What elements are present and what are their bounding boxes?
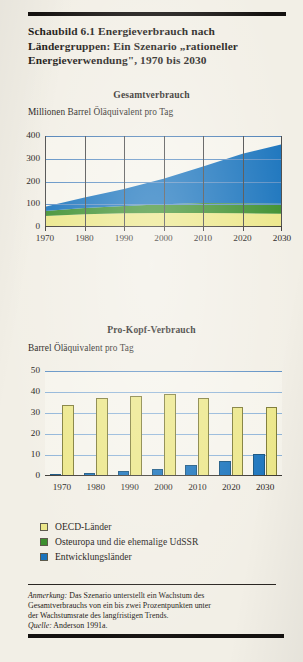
legend-swatch-oecd <box>40 523 48 531</box>
chart-1-tickmark-1980 <box>85 227 86 231</box>
chart-2-ytick-20: 20 <box>8 429 40 438</box>
chart-2-ytick-0: 0 <box>8 471 40 480</box>
note-label-anmerkung: Anmerkung: <box>28 591 67 600</box>
chart-1-tickmark-1970 <box>45 227 46 231</box>
chart-1-vline-1970 <box>45 136 46 227</box>
chart-2-baseline <box>45 475 282 476</box>
bar-entwicklungslaender-2030 <box>253 454 265 476</box>
note-label-quelle: Quelle: <box>28 621 52 630</box>
chart-2-xtick-1990: 1990 <box>113 483 147 492</box>
title-line-1: Schaubild 6.1 Energieverbrauch nach <box>28 25 215 37</box>
note-source-text: Anderson 1991a. <box>52 621 108 630</box>
chart-1-xtick-2000: 2000 <box>147 234 181 243</box>
title-line-2: Ländergruppen: Ein Szenario „rationeller <box>28 40 238 52</box>
chart-2-ytick-40: 40 <box>8 387 40 396</box>
note-line-1: Anmerkung: Das Szenario unterstellt ein … <box>28 591 278 601</box>
note-separator-rule <box>28 584 276 585</box>
chart-1-vline-2020 <box>243 136 244 227</box>
chart-1-vline-2010 <box>203 136 204 227</box>
chart-1-tickmark-2010 <box>203 227 204 231</box>
chart-1-tickmark-2030 <box>281 227 282 231</box>
note-line-2: Gesamtverbrauchs von ein bis zwei Prozen… <box>28 601 278 611</box>
chart-1-vline-1980 <box>85 136 86 227</box>
chart-2-plot <box>45 371 282 476</box>
note-text-1: Das Szenario unterstellt ein Wachstum de… <box>67 591 204 600</box>
note-line-4: Quelle: Anderson 1991a. <box>28 621 278 631</box>
chart-2-title: Pro-Kopf-Verbrauch <box>0 324 303 335</box>
chart-2-gridline-40 <box>45 392 282 393</box>
chart-2-xtick-1970: 1970 <box>45 483 79 492</box>
legend-item-osteuropa: Osteuropa und die ehemalige UdSSR <box>40 534 198 549</box>
chart-2-xtick-2000: 2000 <box>147 483 181 492</box>
chart-1-vline-1990 <box>124 136 125 227</box>
chart-1-ylabel: Millionen Barrel Öläquivalent pro Tag <box>28 107 173 117</box>
chart-1-ytick-300: 300 <box>8 154 40 163</box>
figure-note: Anmerkung: Das Szenario unterstellt ein … <box>28 591 278 631</box>
title-line-3: Energieverwendung", 1970 bis 2030 <box>28 54 207 66</box>
chart-1-xtick-1970: 1970 <box>28 234 62 243</box>
chart-2-xtick-1980: 1980 <box>79 483 113 492</box>
chart-1-xtick-2010: 2010 <box>186 234 220 243</box>
chart-1-xtick-1990: 1990 <box>107 234 141 243</box>
legend-label-osteuropa: Osteuropa und die ehemalige UdSSR <box>55 537 198 547</box>
note-line-3: der Wachstumsrate des langfristigen Tren… <box>28 611 278 621</box>
chart-2-xtick-2010: 2010 <box>180 483 214 492</box>
chart-2-ytick-50: 50 <box>8 366 40 375</box>
chart-gesamtverbrauch: 0100200300400197019801990200020102020203… <box>45 136 282 227</box>
bar-oecd-2030 <box>266 407 278 476</box>
bar-oecd-2020 <box>232 407 244 476</box>
legend-swatch-osteuropa <box>40 538 48 546</box>
legend-item-entwicklungslaender: Entwicklungsländer <box>40 549 198 564</box>
bar-oecd-1980 <box>96 398 108 476</box>
legend-label-entwicklungslaender: Entwicklungsländer <box>55 552 132 562</box>
chart-1-xtick-2030: 2030 <box>265 234 299 243</box>
chart-2-xtick-2020: 2020 <box>214 483 248 492</box>
chart-1-title: Gesamtverbrauch <box>0 89 303 100</box>
chart-1-ytick-100: 100 <box>8 199 40 208</box>
chart-1-plot <box>45 136 282 227</box>
bar-oecd-2000 <box>164 394 176 476</box>
legend: OECD-Länder Osteuropa und die ehemalige … <box>40 519 198 564</box>
chart-2-ytick-10: 10 <box>8 450 40 459</box>
chart-1-vline-2000 <box>164 136 165 227</box>
chart-2-ylabel: Barrel Öläquivalent pro Tag <box>28 343 134 353</box>
chart-1-tickmark-1990 <box>124 227 125 231</box>
chart-2-xtick-2030: 2030 <box>248 483 282 492</box>
chart-2-gridline-50 <box>45 371 282 372</box>
legend-label-oecd: OECD-Länder <box>55 522 111 532</box>
chart-1-xtick-1980: 1980 <box>68 234 102 243</box>
bar-oecd-1990 <box>130 396 142 476</box>
legend-item-oecd: OECD-Länder <box>40 519 198 534</box>
figure-page: Schaubild 6.1 Energieverbrauch nach Länd… <box>0 0 303 662</box>
chart-1-ytick-200: 200 <box>8 177 40 186</box>
chart-1-vline-2030 <box>281 136 282 227</box>
top-rule <box>28 12 286 16</box>
chart-2-ytick-30: 30 <box>8 408 40 417</box>
bar-oecd-1970 <box>62 405 74 476</box>
bottom-rule <box>28 634 284 638</box>
chart-1-xtick-2020: 2020 <box>226 234 260 243</box>
chart-1-tickmark-2020 <box>243 227 244 231</box>
bar-oecd-2010 <box>198 398 210 476</box>
chart-1-tickmark-2000 <box>164 227 165 231</box>
chart-1-ytick-0: 0 <box>8 222 40 231</box>
page-title: Schaubild 6.1 Energieverbrauch nach Länd… <box>28 24 280 68</box>
chart-pro-kopf-verbrauch: 010203040501970198019902000201020202030 <box>45 371 282 476</box>
chart-1-ytick-400: 400 <box>8 131 40 140</box>
legend-swatch-entwicklungslaender <box>40 553 48 561</box>
